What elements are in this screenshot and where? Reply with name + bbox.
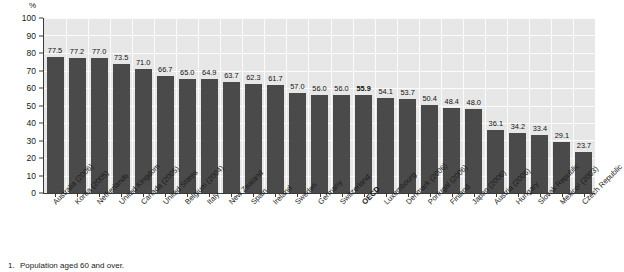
y-axis-tick-label: 70 [27, 66, 36, 75]
gridline-vertical [485, 18, 486, 193]
gridline-vertical [264, 18, 265, 193]
gridline-vertical [308, 18, 309, 193]
gridline-horizontal [44, 35, 595, 36]
gridline-vertical [419, 18, 420, 193]
bar [289, 93, 306, 193]
plot-area: 77.577.277.073.571.066.765.064.963.762.3… [44, 18, 595, 193]
bar [377, 98, 394, 193]
bar [311, 95, 328, 193]
footnote: 1.Population aged 60 and over. [8, 261, 124, 271]
y-axis-tick-label: 30 [27, 136, 36, 145]
bar [267, 85, 284, 193]
y-axis-tick-label: 50 [27, 101, 36, 110]
y-axis-tick-label: 80 [27, 49, 36, 58]
gridline-vertical [198, 18, 199, 193]
y-axis-tick-label: 60 [27, 84, 36, 93]
bar [333, 95, 350, 193]
gridline-vertical [66, 18, 67, 193]
bar [47, 57, 64, 193]
gridline-vertical [132, 18, 133, 193]
gridline-vertical [551, 18, 552, 193]
gridline-vertical [529, 18, 530, 193]
gridline-vertical [286, 18, 287, 193]
y-axis-tick-label: 20 [27, 154, 36, 163]
gridline-vertical [110, 18, 111, 193]
y-axis-tick-label: 10 [27, 171, 36, 180]
bar-value-label: 23.7 [567, 142, 601, 150]
y-axis-unit-label: % [29, 1, 36, 10]
footnote-number: 1. [8, 261, 20, 271]
gridline-vertical [331, 18, 332, 193]
y-axis-tick-label: 0 [31, 189, 36, 198]
y-axis-tick-label: 100 [22, 14, 36, 23]
y-axis-tick-label: 90 [27, 31, 36, 40]
gridline-vertical [507, 18, 508, 193]
gridline-vertical [397, 18, 398, 193]
gridline-horizontal [44, 18, 595, 19]
footnote-text: Population aged 60 and over. [20, 261, 124, 270]
y-axis-tick-labels: 1009080706050403020100 [0, 12, 44, 199]
bar-value-label: 61.7 [258, 75, 292, 83]
gridline-vertical [242, 18, 243, 193]
gridline-vertical [353, 18, 354, 193]
gridline-vertical [375, 18, 376, 193]
y-axis-tick-label: 40 [27, 119, 36, 128]
x-axis-category-labels: Australia (2006)Korea (2005)NetherlandsU… [0, 198, 608, 256]
bar [223, 82, 240, 193]
